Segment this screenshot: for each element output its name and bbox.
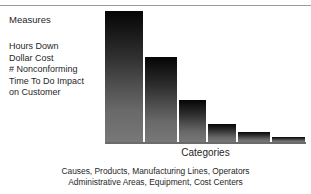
bar-2 xyxy=(144,57,178,142)
bar-3 xyxy=(178,100,207,142)
measures-heading: Measures xyxy=(9,14,104,26)
caption-line-2: Administrative Areas, Equipment, Cost Ce… xyxy=(0,177,311,188)
caption-line-1: Causes, Products, Manufacturing Lines, O… xyxy=(0,166,311,177)
pareto-bar-chart xyxy=(105,8,306,143)
x-axis-label: Categories xyxy=(105,146,306,159)
list-item: Hours Down xyxy=(9,41,104,53)
list-item: on Customer xyxy=(9,87,104,99)
bar-1 xyxy=(105,11,144,142)
bar-4 xyxy=(207,124,237,142)
clipped-chart-title: Pareto xyxy=(0,0,311,2)
list-item: # Nonconforming xyxy=(9,64,104,76)
caption-block: Causes, Products, Manufacturing Lines, O… xyxy=(0,166,311,188)
list-item: Dollar Cost xyxy=(9,53,104,65)
measures-panel: Measures Hours Down Dollar Cost # Noncon… xyxy=(9,14,104,115)
measures-list: Hours Down Dollar Cost # Nonconforming T… xyxy=(9,41,104,99)
plot-area xyxy=(105,8,306,142)
top-divider-rule xyxy=(0,5,311,6)
list-item: Time To Do Impact xyxy=(9,76,104,88)
x-axis-line xyxy=(105,142,306,144)
bar-5 xyxy=(237,132,271,142)
